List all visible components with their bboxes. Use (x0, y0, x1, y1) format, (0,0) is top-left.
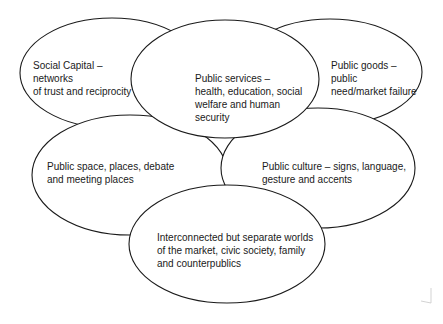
label-public-services: Public services – health, education, soc… (195, 72, 302, 124)
label-public-culture: Public culture – signs, language, gestur… (262, 160, 406, 186)
label-public-space: Public space, places, debate and meeting… (47, 160, 174, 186)
corner-mark-icon (421, 288, 431, 303)
label-interconnected-worlds: Interconnected but separate worlds of th… (157, 231, 313, 270)
label-public-goods: Public goods – public need/market failur… (331, 59, 417, 98)
label-social-capital: Social Capital – networks of trust and r… (33, 59, 131, 98)
